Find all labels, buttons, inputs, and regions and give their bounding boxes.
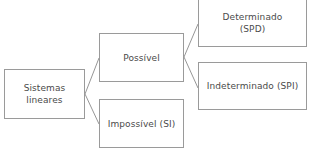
node-label: Indeterminado (SPI) bbox=[207, 80, 299, 92]
node-determinado: Determinado (SPD) bbox=[198, 0, 307, 47]
edge-root-to-possible bbox=[85, 58, 99, 94]
edge-root-to-impossible bbox=[85, 94, 99, 124]
edge-possible-to-undetermined bbox=[184, 57, 198, 88]
node-label-line: (SPD) bbox=[223, 23, 283, 35]
node-label: Possível bbox=[123, 52, 160, 64]
node-indeterminado: Indeterminado (SPI) bbox=[198, 62, 307, 110]
node-possivel: Possível bbox=[99, 33, 184, 82]
linear-systems-classification-diagram: Sistemas lineares Possível Impossível (S… bbox=[0, 0, 311, 151]
node-label-line: lineares bbox=[24, 94, 66, 106]
node-label: Impossível (SI) bbox=[108, 118, 176, 130]
edge-possible-to-determined bbox=[184, 24, 198, 57]
node-label-line: Sistemas bbox=[24, 82, 66, 94]
node-impossivel: Impossível (SI) bbox=[99, 99, 184, 148]
node-label-line: Determinado bbox=[223, 11, 283, 23]
node-sistemas-lineares: Sistemas lineares bbox=[4, 69, 85, 119]
